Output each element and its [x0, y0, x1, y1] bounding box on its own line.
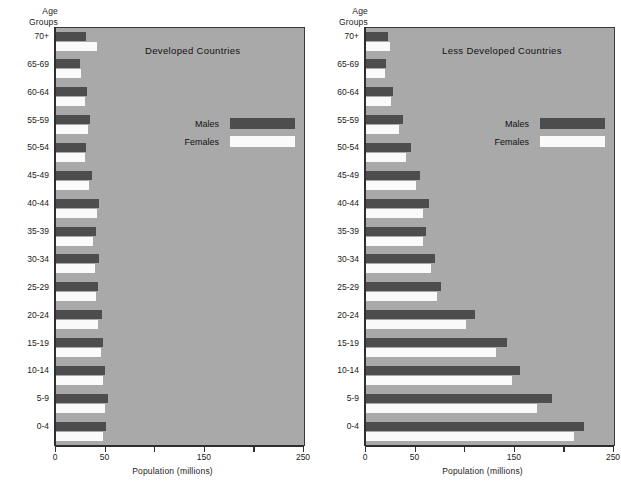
- bar-female: [56, 153, 85, 162]
- bar-male: [56, 338, 103, 347]
- chart-panel-developed: Age Groups 70+65-6960-6455-5950-5445-494…: [0, 0, 311, 485]
- y-axis-tick-label: 40-44: [0, 198, 49, 208]
- population-pyramid-figure: Age Groups 70+65-6960-6455-5950-5445-494…: [0, 0, 621, 485]
- legend-swatch-males: [230, 118, 295, 129]
- bar-male: [366, 394, 552, 403]
- y-axis-tick-label: 60-64: [0, 87, 49, 97]
- bar-female: [366, 125, 399, 134]
- bar-female: [56, 125, 88, 134]
- panel-title: Less Developed Countries: [442, 45, 562, 56]
- x-axis-tick-label: 150: [197, 452, 211, 462]
- bar-female: [366, 237, 423, 246]
- x-axis-line: [55, 445, 304, 447]
- bar-male: [56, 143, 86, 152]
- y-axis-tick-label: 10-14: [310, 365, 359, 375]
- y-axis-title-line2: Groups: [320, 17, 368, 28]
- y-axis-title-line2: Groups: [10, 17, 58, 28]
- y-axis-tick-label: 65-69: [310, 59, 359, 69]
- legend-label-females: Females: [494, 136, 529, 148]
- bar-male: [366, 115, 403, 124]
- bar-male: [366, 254, 435, 263]
- y-axis-tick-label: 5-9: [0, 393, 49, 403]
- x-axis-tick: [154, 446, 155, 452]
- bar-female: [366, 432, 574, 441]
- y-axis-tick-label: 40-44: [310, 198, 359, 208]
- bar-male: [56, 366, 105, 375]
- bar-female: [56, 209, 97, 218]
- bar-male: [366, 59, 386, 68]
- y-axis-tick-label: 30-34: [0, 254, 49, 264]
- bar-male: [366, 32, 388, 41]
- bar-male: [366, 199, 429, 208]
- legend-label-males: Males: [195, 118, 219, 130]
- y-axis-title-line1: Age: [10, 6, 58, 17]
- y-axis-tick-label: 10-14: [0, 365, 49, 375]
- y-axis-tick-label: 30-34: [310, 254, 359, 264]
- bar-female: [56, 348, 101, 357]
- y-axis-tick-label: 45-49: [0, 170, 49, 180]
- bar-female: [56, 292, 96, 301]
- plot-bars-container: [366, 28, 614, 446]
- y-axis-tick-label: 55-59: [310, 115, 359, 125]
- y-axis-tick-label: 25-29: [310, 282, 359, 292]
- x-axis-tick-label: 0: [363, 452, 368, 462]
- x-axis-tick-label: 50: [410, 452, 419, 462]
- bar-male: [56, 115, 90, 124]
- y-axis-tick-label: 70+: [310, 31, 359, 41]
- x-axis-tick-label: 250: [606, 452, 620, 462]
- bar-male: [56, 394, 108, 403]
- y-axis-tick-label: 70+: [0, 31, 49, 41]
- plot-bars-container: [56, 28, 304, 446]
- x-axis-line: [365, 445, 614, 447]
- legend-swatch-females: [230, 136, 295, 147]
- bar-female: [366, 42, 390, 51]
- panel-title: Developed Countries: [145, 45, 240, 56]
- bar-male: [56, 227, 96, 236]
- legend-swatch-females: [540, 136, 605, 147]
- x-axis-label: Population (millions): [442, 466, 523, 476]
- bar-male: [366, 171, 420, 180]
- bar-female: [366, 181, 416, 190]
- y-axis-tick-label: 50-54: [0, 142, 49, 152]
- bar-male: [366, 310, 475, 319]
- bar-female: [56, 237, 93, 246]
- bar-male: [366, 282, 441, 291]
- y-axis-tick-label: 25-29: [0, 282, 49, 292]
- bar-female: [56, 376, 103, 385]
- bar-female: [56, 320, 98, 329]
- bar-male: [56, 171, 92, 180]
- legend-label-males: Males: [505, 118, 529, 130]
- bar-female: [56, 42, 97, 51]
- bar-female: [366, 69, 385, 78]
- x-axis-tick-label: 150: [507, 452, 521, 462]
- bar-female: [366, 153, 406, 162]
- y-axis-line: [54, 27, 56, 446]
- legend-swatch-males: [540, 118, 605, 129]
- y-axis-tick-label: 20-24: [0, 310, 49, 320]
- bar-female: [56, 432, 103, 441]
- y-axis-tick-label: 35-39: [0, 226, 49, 236]
- bar-male: [56, 282, 98, 291]
- bar-female: [366, 209, 423, 218]
- bar-male: [56, 422, 106, 431]
- x-axis-label-wrap: Population (millions): [310, 466, 621, 476]
- bar-male: [56, 310, 102, 319]
- bar-male: [56, 59, 80, 68]
- x-axis-tick-label: 250: [296, 452, 310, 462]
- bar-female: [56, 97, 85, 106]
- bar-male: [366, 227, 426, 236]
- y-axis-tick-label: 15-19: [310, 338, 359, 348]
- x-axis-tick: [464, 446, 465, 452]
- y-axis-tick-label: 50-54: [310, 142, 359, 152]
- bar-female: [56, 69, 81, 78]
- x-axis-label: Population (millions): [132, 466, 213, 476]
- bar-male: [56, 32, 86, 41]
- y-axis-tick-label: 35-39: [310, 226, 359, 236]
- bar-female: [56, 404, 105, 413]
- y-axis-tick-label: 0-4: [310, 421, 359, 431]
- bar-female: [366, 348, 496, 357]
- legend-label-females: Females: [184, 136, 219, 148]
- bar-male: [56, 199, 99, 208]
- bar-male: [56, 87, 87, 96]
- y-axis-tick-label: 5-9: [310, 393, 359, 403]
